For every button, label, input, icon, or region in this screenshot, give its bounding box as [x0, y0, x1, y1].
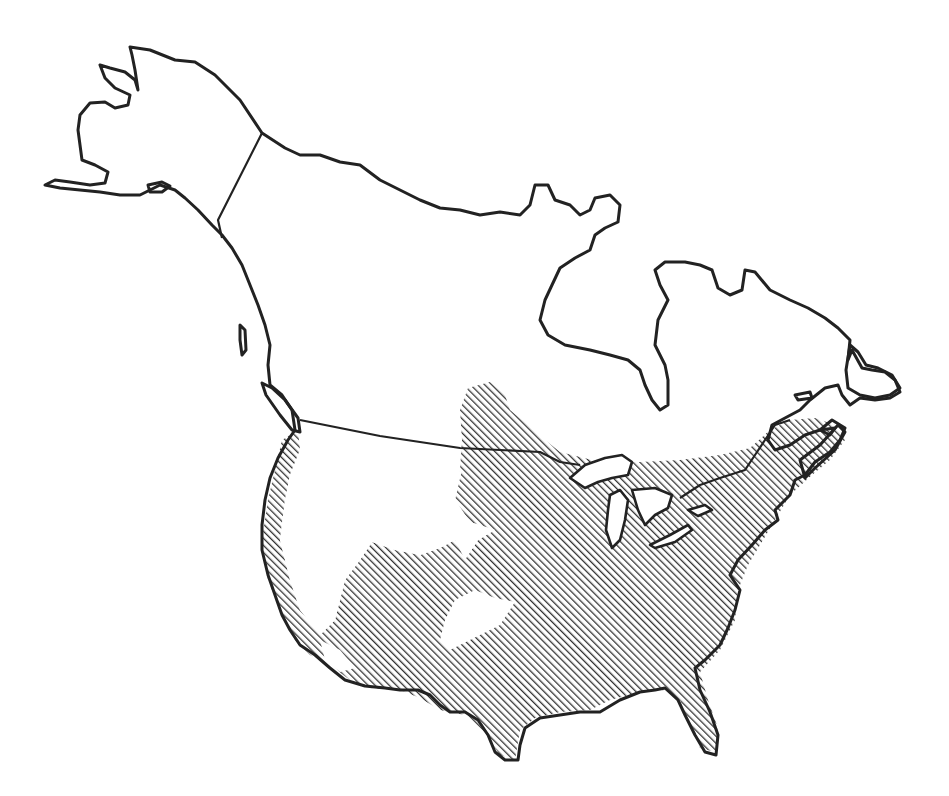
- range-map: [0, 0, 949, 796]
- north-america-map: [0, 0, 949, 796]
- range-shading: [262, 382, 845, 760]
- alaska-canada-border: [218, 133, 262, 238]
